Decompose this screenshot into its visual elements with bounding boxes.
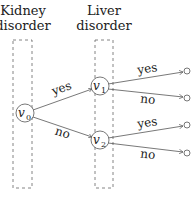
- kidney-header-line1: Kidney: [0, 3, 46, 18]
- label-v0-v2: no: [53, 124, 72, 142]
- liver-column-box: [95, 40, 113, 188]
- terminal-node-1: [184, 68, 190, 74]
- node-v2-sub: 2: [101, 140, 106, 149]
- liver-header-line1: Liver: [87, 3, 122, 18]
- label-v0-v1: yes: [49, 78, 73, 98]
- decision-tree: Kidney disorder Liver disorder yes no ye…: [0, 0, 194, 197]
- label-v2-t4: no: [140, 147, 156, 162]
- liver-header-line2: disorder: [76, 18, 132, 33]
- node-v2-label: v: [93, 133, 100, 147]
- node-v0-sub: 0: [26, 113, 31, 122]
- label-v1-t1: yes: [135, 60, 158, 77]
- label-v1-t2: no: [140, 92, 156, 107]
- label-v2-t3: yes: [135, 114, 158, 131]
- terminal-node-2: [184, 95, 190, 101]
- node-v0-label: v: [18, 106, 25, 120]
- node-v1-sub: 1: [101, 86, 106, 95]
- terminal-node-3: [184, 122, 190, 128]
- kidney-header-line2: disorder: [0, 18, 51, 33]
- node-v1-label: v: [93, 79, 100, 93]
- terminal-node-4: [184, 150, 190, 156]
